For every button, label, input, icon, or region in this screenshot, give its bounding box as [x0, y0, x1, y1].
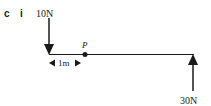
up-arrow-icon — [188, 54, 198, 65]
dimension-left-arrow-icon — [49, 60, 55, 67]
point-p-dot — [83, 52, 88, 57]
down-arrow-icon — [44, 44, 54, 55]
dimension-right-arrow-icon — [75, 60, 81, 67]
beam-diagram — [0, 0, 211, 106]
